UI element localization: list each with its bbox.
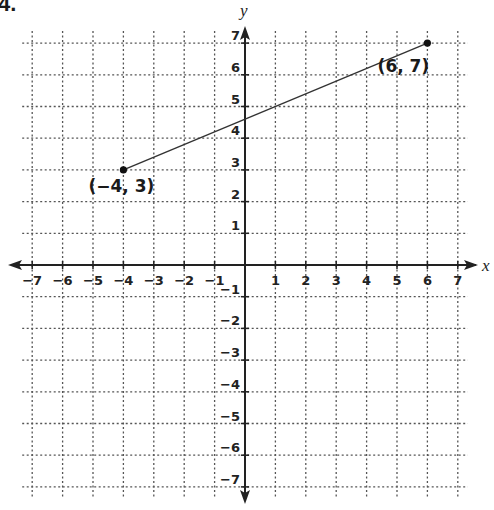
x-tick-label: −5	[83, 273, 103, 288]
y-tick-label: 6	[231, 60, 240, 75]
x-tick-label: −6	[53, 273, 73, 288]
x-tick-label: −3	[144, 273, 164, 288]
y-tick-label: −1	[220, 282, 240, 297]
y-tick-label: 7	[231, 28, 240, 43]
x-tick-label: 3	[332, 273, 341, 288]
x-tick-label: 6	[423, 273, 432, 288]
x-tick-label: 7	[453, 273, 462, 288]
y-tick-label: 3	[231, 155, 240, 170]
x-tick-label: 1	[271, 273, 280, 288]
y-tick-label: 2	[231, 187, 240, 202]
x-tick-label: −7	[22, 273, 42, 288]
coordinate-plane: xy −7−6−5−4−3−2−11234567−7−6−5−4−3−2−112…	[0, 0, 494, 510]
x-axis-label: x	[481, 256, 490, 275]
data-series: (−4, 3)(6, 7)	[88, 40, 431, 196]
tick-labels: −7−6−5−4−3−2−11234567−7−6−5−4−3−2−112345…	[22, 28, 462, 487]
point-label: (6, 7)	[378, 56, 430, 76]
y-tick-label: 5	[231, 92, 240, 107]
x-tick-label: −4	[113, 273, 133, 288]
x-tick-label: 2	[301, 273, 310, 288]
point-label: (−4, 3)	[88, 176, 154, 196]
x-tick-label: 5	[392, 273, 401, 288]
y-tick-label: −7	[220, 472, 240, 487]
y-tick-label: −2	[220, 313, 240, 328]
y-tick-label: 4	[231, 123, 240, 138]
y-tick-label: −5	[220, 409, 240, 424]
data-point	[120, 166, 127, 173]
x-tick-label: −2	[174, 273, 194, 288]
y-axis-label: y	[238, 1, 248, 20]
y-tick-label: −6	[220, 440, 240, 455]
x-tick-label: 4	[362, 273, 371, 288]
y-tick-label: −3	[220, 345, 240, 360]
axes: xy	[8, 1, 490, 504]
data-point	[424, 40, 431, 47]
y-tick-label: −4	[220, 377, 240, 392]
y-tick-label: 1	[231, 218, 240, 233]
